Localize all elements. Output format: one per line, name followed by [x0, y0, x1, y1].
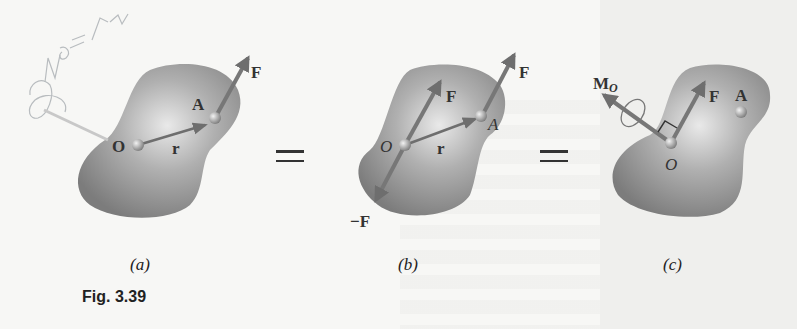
label-r-a: r: [172, 140, 180, 157]
moment-symbol: M: [593, 74, 609, 93]
label-point-a-a: A: [192, 96, 204, 113]
moment-subscript: O: [609, 81, 618, 95]
caption-panel-c: (c): [663, 255, 682, 275]
label-force-b-at-a: F: [519, 64, 529, 81]
label-force-c: F: [709, 88, 719, 105]
point-o-marker-c: [665, 137, 677, 149]
caption-panel-a: (a): [130, 255, 150, 275]
point-a-marker-b: [475, 110, 487, 122]
point-a-marker-c: [735, 106, 747, 118]
label-moment-mo: MO: [593, 75, 618, 94]
point-o-marker-a: [132, 139, 144, 151]
label-point-o-a: O: [112, 138, 125, 155]
point-o-marker-b: [399, 139, 411, 151]
caption-panel-b: (b): [398, 255, 418, 275]
moment-vector-mo: [604, 95, 671, 143]
figure-canvas: [0, 0, 797, 329]
panel-a-body: [78, 64, 240, 218]
label-point-a-b: A: [488, 116, 498, 133]
label-force-b-at-o: F: [446, 88, 456, 105]
point-a-marker-a: [209, 112, 221, 124]
label-point-o-c: O: [665, 156, 677, 173]
label-point-o-b: O: [380, 138, 392, 155]
figure-number: Fig. 3.39: [82, 288, 146, 306]
label-force-a: F: [251, 64, 261, 81]
label-point-a-c: A: [735, 87, 747, 104]
label-neg-force-b: −F: [350, 213, 370, 230]
label-r-b: r: [437, 140, 445, 157]
equals-sign-1: [276, 150, 304, 162]
handwriting-annotation: [29, 14, 128, 140]
equals-sign-2: [540, 150, 568, 162]
